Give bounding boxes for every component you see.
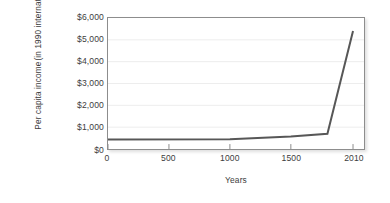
y-tick-label: $2,000: [62, 101, 104, 110]
x-tick-label: 0: [105, 153, 110, 163]
x-tick-label: 1000: [220, 153, 240, 163]
y-axis-title-line-1: Per capita income: [33, 62, 44, 130]
y-tick-label: $3,000: [62, 79, 104, 88]
data-line-series-0: [108, 31, 353, 140]
y-tick-label: $6,000: [62, 13, 104, 22]
chart-figure: Per capita income (in 1990 international…: [0, 0, 390, 203]
y-axis-tick-labels: $0$1,000$2,000$3,000$4,000$5,000$6,000: [58, 0, 104, 203]
x-axis-title: Years: [107, 175, 365, 185]
y-tick-label: $5,000: [62, 35, 104, 44]
plot-area: [107, 17, 365, 150]
x-tick-label: 2010: [344, 153, 364, 163]
y-tick-label: $4,000: [62, 57, 104, 66]
x-tick-label: 500: [161, 153, 176, 163]
y-axis-title-line-2: (in 1990 international dollars): [33, 0, 44, 61]
y-tick-label: $1,000: [62, 123, 104, 132]
x-axis-tick-labels: 0500100015002010: [0, 153, 390, 167]
y-axis-title: Per capita income (in 1990 international…: [14, 0, 62, 110]
plot-svg: [108, 18, 364, 149]
x-tick-label: 1500: [282, 153, 302, 163]
